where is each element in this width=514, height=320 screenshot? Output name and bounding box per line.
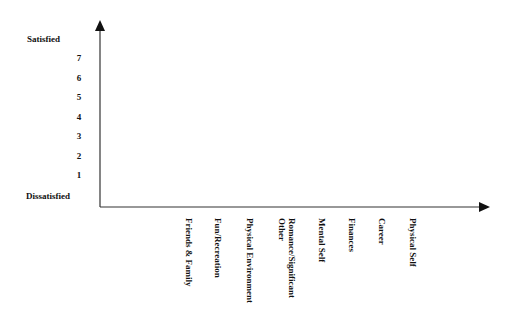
- y-tick-1: 1: [74, 170, 84, 180]
- y-axis-top-label: Satisfied: [27, 34, 60, 44]
- y-axis-arrow-icon: [95, 20, 105, 31]
- category-label-physical-environment: Physical Environment: [245, 218, 255, 303]
- category-label-finances: Finances: [347, 218, 357, 252]
- category-label-romance-significant-other: Romance/Significant Other: [277, 218, 297, 298]
- y-tick-4: 4: [74, 112, 84, 122]
- y-axis-bottom-label: Dissatisfied: [26, 191, 70, 201]
- category-label-friends-family: Friends & Family: [184, 218, 194, 287]
- y-tick-2: 2: [74, 151, 84, 161]
- category-label-mental-self: Mental Self: [317, 218, 327, 262]
- category-label-physical-self: Physical Self: [408, 218, 418, 267]
- y-tick-3: 3: [74, 131, 84, 141]
- category-label-fun-recreation: Fun/Recreation: [213, 218, 223, 278]
- y-tick-5: 5: [74, 92, 84, 102]
- y-tick-7: 7: [74, 53, 84, 63]
- category-label-career: Career: [377, 218, 387, 245]
- x-axis-arrow-icon: [479, 202, 490, 212]
- y-tick-6: 6: [74, 73, 84, 83]
